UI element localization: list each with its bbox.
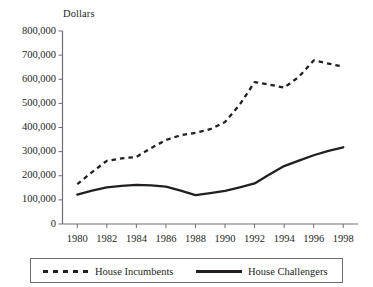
x-axis-tick-label: 1992: [244, 234, 265, 245]
x-axis-tick-label: 1996: [303, 234, 324, 245]
x-axis-tick-label: 1990: [215, 234, 236, 245]
legend: House Incumbents House Challengers: [30, 258, 343, 283]
chart-container: Dollars 800,000700,000600,000500,000400,…: [0, 0, 373, 287]
legend-swatch-solid-icon: [196, 270, 242, 273]
x-axis-tick-label: 1988: [185, 234, 206, 245]
x-axis-tick-label: 1986: [155, 234, 176, 245]
x-axis-tick-label: 1994: [274, 234, 295, 245]
legend-label-house-challengers: House Challengers: [248, 266, 328, 277]
legend-label-house-incumbents: House Incumbents: [95, 266, 173, 277]
legend-item-house-challengers[interactable]: House Challengers: [196, 259, 328, 284]
legend-item-house-incumbents[interactable]: House Incumbents: [43, 259, 173, 284]
x-axis-tick-label: 1980: [67, 234, 88, 245]
x-axis-tick-label: 1998: [333, 234, 354, 245]
x-axis-tick-label: 1982: [96, 234, 117, 245]
x-axis-tick-labels: 1980198219841986198819901992199419961998: [0, 0, 373, 287]
x-axis-tick-label: 1984: [126, 234, 147, 245]
legend-swatch-dashed-icon: [43, 270, 89, 273]
